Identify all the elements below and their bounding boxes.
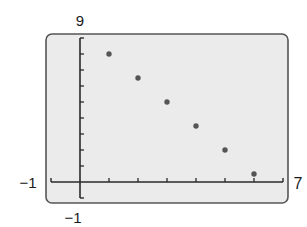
data-point — [135, 75, 140, 80]
window-ymin-label: −1 — [64, 209, 81, 226]
calculator-scatter-plot: 9 −1 7 −1 — [0, 0, 307, 227]
data-point — [164, 99, 169, 104]
window-ymax-label: 9 — [76, 12, 84, 29]
window-xmin-label: −1 — [19, 174, 36, 191]
data-point — [193, 123, 198, 128]
data-point — [251, 171, 256, 176]
window-xmax-label: 7 — [294, 175, 303, 192]
data-point — [222, 147, 227, 152]
data-point — [106, 51, 111, 56]
